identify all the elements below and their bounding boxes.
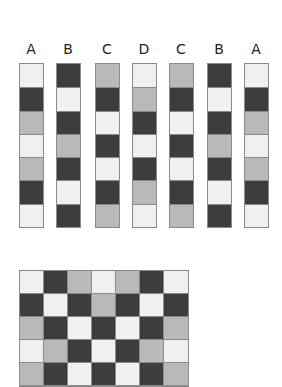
grid-cell (116, 294, 140, 317)
grid-cell (116, 317, 140, 340)
strip-cell (96, 87, 119, 110)
strip-cell (133, 157, 156, 180)
strip-cell (208, 180, 231, 203)
grid-cell (164, 271, 188, 294)
grid-cell (92, 294, 116, 317)
color-strip-c (95, 63, 120, 228)
strip-label: B (56, 42, 80, 56)
grid-cell (68, 317, 92, 340)
strip-cell (245, 134, 268, 157)
strip-cell (20, 204, 43, 227)
color-strip-a (19, 63, 44, 228)
strip-cell (170, 87, 193, 110)
strip-cell (245, 180, 268, 203)
strip-cell (245, 64, 268, 87)
color-strip-b (56, 63, 81, 228)
grid-cell (20, 363, 44, 386)
grid-cell (44, 317, 68, 340)
grid-cell (68, 271, 92, 294)
grid-cell (164, 340, 188, 363)
strip-label: A (244, 42, 268, 56)
grid-cell (164, 317, 188, 340)
strip-cell (57, 134, 80, 157)
strip-cell (96, 204, 119, 227)
strip-cell (170, 111, 193, 134)
grid-cell (140, 340, 164, 363)
strip-cell (133, 64, 156, 87)
strip-cell (96, 157, 119, 180)
grid-cell (20, 340, 44, 363)
strip-cell (170, 64, 193, 87)
strip-cell (170, 180, 193, 203)
strip-cell (208, 134, 231, 157)
grid-cell (44, 363, 68, 386)
grid-cell (92, 340, 116, 363)
strip-label: B (207, 42, 231, 56)
grid-cell (68, 340, 92, 363)
strip-label: C (95, 42, 119, 56)
color-strip-a (244, 63, 269, 228)
color-strip-b (207, 63, 232, 228)
strip-cell (208, 111, 231, 134)
strip-cell (245, 157, 268, 180)
grid-cell (116, 271, 140, 294)
grid-cell (44, 294, 68, 317)
strip-cell (20, 111, 43, 134)
strip-cell (170, 204, 193, 227)
strip-cell (96, 64, 119, 87)
strip-cell (96, 180, 119, 203)
strip-cell (20, 157, 43, 180)
grid-cell (44, 340, 68, 363)
grid-cell (20, 317, 44, 340)
grid-cell (140, 271, 164, 294)
strip-cell (245, 87, 268, 110)
grid-cell (140, 363, 164, 386)
strip-cell (245, 204, 268, 227)
grid-cell (164, 363, 188, 386)
strip-cell (57, 180, 80, 203)
grid-cell (68, 363, 92, 386)
strip-cell (170, 134, 193, 157)
color-strip-c (169, 63, 194, 228)
grid-cell (44, 271, 68, 294)
grid-cell (116, 340, 140, 363)
grid-cell (140, 294, 164, 317)
strip-cell (133, 111, 156, 134)
grid-cell (20, 294, 44, 317)
strip-cell (133, 134, 156, 157)
strip-cell (208, 157, 231, 180)
strip-cell (133, 204, 156, 227)
strip-cell (208, 204, 231, 227)
strip-cell (96, 111, 119, 134)
strip-cell (208, 64, 231, 87)
strip-cell (57, 87, 80, 110)
strip-cell (20, 180, 43, 203)
strip-cell (57, 204, 80, 227)
grid-cell (140, 317, 164, 340)
grid-cell (92, 363, 116, 386)
grid-cell (164, 294, 188, 317)
strip-cell (170, 157, 193, 180)
strip-label: A (19, 42, 43, 56)
grid-cell (68, 294, 92, 317)
strip-cell (20, 87, 43, 110)
grid-cell (92, 271, 116, 294)
strip-cell (96, 134, 119, 157)
color-strip-d (132, 63, 157, 228)
strip-cell (20, 134, 43, 157)
strip-label: D (132, 42, 156, 56)
strip-cell (57, 157, 80, 180)
grid-cell (92, 317, 116, 340)
strip-cell (245, 111, 268, 134)
strip-cell (133, 87, 156, 110)
strip-cell (208, 87, 231, 110)
strip-cell (133, 180, 156, 203)
strip-cell (57, 64, 80, 87)
grid-cell (116, 363, 140, 386)
strip-cell (20, 64, 43, 87)
grid-cell (20, 271, 44, 294)
strip-label: C (169, 42, 193, 56)
strip-cell (57, 111, 80, 134)
woven-grid (19, 270, 189, 387)
